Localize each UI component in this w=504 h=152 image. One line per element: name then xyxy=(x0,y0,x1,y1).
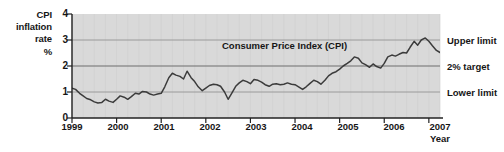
y-axis-title-line-3: rate xyxy=(0,33,52,45)
y-axis-title-line-2: inflation xyxy=(0,21,52,33)
upper-limit-label: Upper limit xyxy=(447,35,497,46)
x-tick-label-1999: 1999 xyxy=(50,121,94,132)
y-axis-title-line-1: CPI xyxy=(0,9,52,21)
target-label: 2% target xyxy=(447,61,490,72)
x-tick-label-2006: 2006 xyxy=(372,121,416,132)
y-tick-label-4: 4 xyxy=(54,8,68,19)
x-tick-label-2003: 2003 xyxy=(234,121,278,132)
x-tick-label-2001: 2001 xyxy=(142,121,186,132)
x-tick-label-2002: 2002 xyxy=(188,121,232,132)
x-tick-label-2007: 2007 xyxy=(418,121,462,132)
series-annotation-label: Consumer Price Index (CPI) xyxy=(222,40,347,51)
x-tick-label-2000: 2000 xyxy=(96,121,140,132)
lower-limit-label: Lower limit xyxy=(447,87,497,98)
y-tick-label-3: 3 xyxy=(54,34,68,45)
x-axis-title: Year xyxy=(418,133,462,144)
x-tick-label-2005: 2005 xyxy=(326,121,370,132)
cpi-inflation-chart: CPI inflation rate % 0 1 2 3 4 xyxy=(0,0,504,152)
y-tick-label-2: 2 xyxy=(54,60,68,71)
x-tick-label-2004: 2004 xyxy=(280,121,324,132)
y-axis-title-line-4: % xyxy=(0,46,52,58)
y-tick-label-1: 1 xyxy=(54,86,68,97)
y-axis-title: CPI inflation rate % xyxy=(0,9,52,58)
